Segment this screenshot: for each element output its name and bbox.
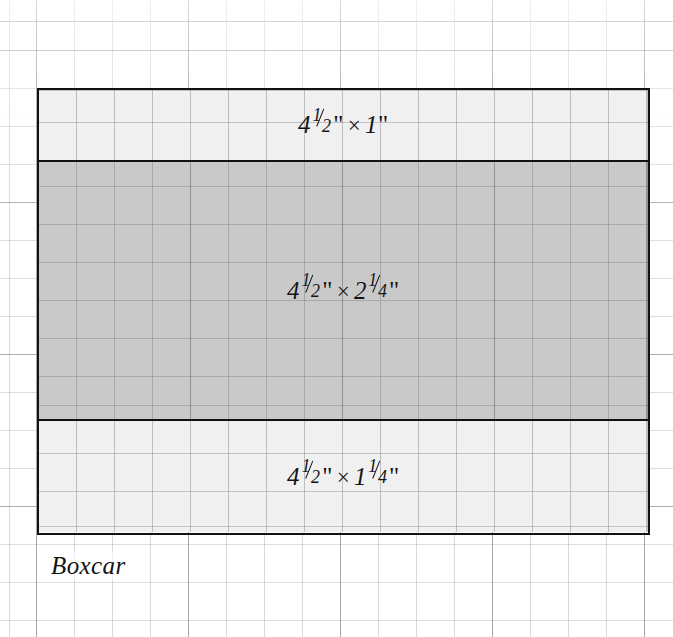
figure-caption: Boxcar — [48, 552, 129, 580]
bottom-band-dimension-label: 412"×114" — [287, 463, 400, 491]
bottom-band-width-whole: 4 — [287, 463, 300, 490]
top-band-height-whole: 1 — [365, 111, 378, 138]
top-band: 412"×1" — [39, 90, 648, 162]
bottom-band-height-whole: 1 — [354, 463, 367, 490]
multiplication-sign-icon: × — [344, 113, 365, 138]
top-band-width-fraction: 12 — [312, 114, 332, 134]
bottom-band-width-fraction-denominator: 2 — [311, 467, 321, 488]
figure-page: 412"×1" 412"×214" 412"×114" Boxcar — [0, 0, 673, 637]
middle-band-width-fraction-denominator: 2 — [311, 281, 321, 302]
middle-band-width-whole: 4 — [287, 277, 300, 304]
top-band-dimension-label: 412"×1" — [298, 111, 389, 139]
top-band-width-fraction-denominator: 2 — [322, 116, 332, 137]
multiplication-sign-icon: × — [333, 279, 354, 304]
middle-band-height-fraction-denominator: 4 — [378, 281, 388, 302]
middle-band: 412"×214" — [39, 162, 648, 421]
bottom-band-height-fraction: 14 — [368, 465, 388, 485]
boxcar-diagram: 412"×1" 412"×214" 412"×114" — [37, 88, 650, 535]
bottom-band: 412"×114" — [39, 421, 648, 532]
bottom-band-width-fraction: 12 — [301, 465, 321, 485]
middle-band-height-whole: 2 — [354, 277, 367, 304]
top-band-height-inch-mark: " — [378, 111, 389, 138]
top-band-width-whole: 4 — [298, 111, 311, 138]
multiplication-sign-icon: × — [333, 465, 354, 490]
bottom-band-height-fraction-denominator: 4 — [378, 467, 388, 488]
middle-band-dimension-label: 412"×214" — [287, 277, 400, 305]
middle-band-height-fraction: 14 — [368, 279, 388, 299]
middle-band-width-fraction: 12 — [301, 279, 321, 299]
